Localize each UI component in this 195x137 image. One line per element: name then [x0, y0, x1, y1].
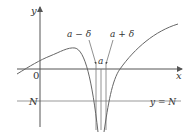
n-tick-label: N [28, 96, 39, 107]
diagram-canvas: y x 0 N y = N a − δ a + δ a [0, 0, 195, 137]
origin-label: 0 [33, 70, 39, 81]
a-plus-delta-label: a + δ [110, 29, 134, 39]
a-minus-delta-label: a − δ [67, 29, 91, 39]
curve-left-branch [17, 48, 98, 132]
limit-infinity-diagram: y x 0 N y = N a − δ a + δ a [0, 0, 195, 137]
pointer-a-minus-delta [89, 40, 96, 64]
curve-right-branch [104, 24, 178, 132]
y-axis-label: y [30, 5, 37, 16]
pointer-a-plus-delta [106, 40, 113, 64]
a-label: a [98, 56, 103, 66]
x-axis-label: x [176, 70, 182, 81]
line-equation-label: y = N [149, 97, 177, 107]
